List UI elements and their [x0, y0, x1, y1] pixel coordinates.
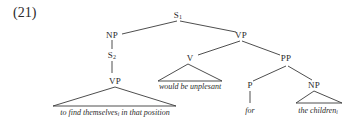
leaf-v: would be unplesant: [159, 82, 221, 91]
node-s2: S2: [108, 50, 116, 60]
node-pp: PP: [281, 53, 291, 63]
leaf-np-object: the childreni: [298, 106, 338, 115]
node-vp-embedded: VP: [109, 76, 121, 86]
node-s1: S1: [174, 10, 182, 20]
triangle-embedded-vp: [53, 87, 176, 106]
triangle-np-object: [296, 91, 342, 103]
node-v: V: [187, 53, 194, 63]
triangle-v: [158, 64, 222, 81]
branch-pp-p: [253, 66, 286, 81]
branch-s1-np: [122, 21, 177, 34]
branch-vp-v: [198, 41, 240, 55]
node-np-object: NP: [308, 80, 320, 90]
node-p: P: [247, 80, 252, 90]
branch-s1-vp: [180, 21, 236, 32]
node-vp-main: VP: [235, 30, 247, 40]
branch-pp-np: [288, 66, 312, 80]
leaf-embedded-vp: to find themselvesi in that position: [60, 108, 169, 117]
node-np-subject: NP: [106, 30, 118, 40]
branch-vp-pp: [242, 41, 280, 55]
leaf-p: for: [245, 106, 254, 115]
